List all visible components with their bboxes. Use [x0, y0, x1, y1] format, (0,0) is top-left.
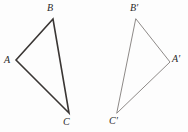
triangle-abc-outline — [16, 19, 69, 113]
vertex-label-a-prime: A′ — [172, 54, 180, 64]
vertex-label-c-prime: C′ — [109, 116, 118, 126]
vertex-label-a: A — [4, 55, 10, 65]
triangles-canvas — [0, 0, 188, 132]
vertex-label-b: B — [47, 3, 53, 13]
vertex-label-b-prime: B′ — [130, 3, 138, 13]
vertex-label-c: C — [63, 117, 70, 127]
triangle-a-prime-b-prime-c-prime-outline — [117, 19, 170, 113]
geometry-figure: A B C A′ B′ C′ — [0, 0, 188, 132]
